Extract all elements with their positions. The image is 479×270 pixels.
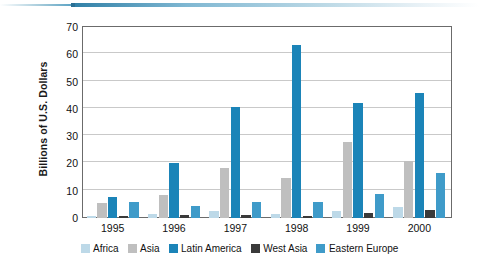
bar [436, 173, 446, 218]
legend-label: West Asia [263, 243, 307, 254]
bar [97, 203, 107, 218]
bar [220, 168, 230, 218]
bar-chart: Billions of U.S. Dollars 010203040506070… [0, 10, 479, 270]
y-tick-label: 50 [54, 77, 78, 87]
chart-legend: AfricaAsiaLatin AmericaWest AsiaEastern … [0, 243, 479, 254]
x-tick-label: 1997 [224, 222, 247, 234]
bar [425, 210, 435, 218]
bar [375, 194, 385, 218]
bar [303, 216, 313, 218]
legend-item-latin-america[interactable]: Latin America [169, 243, 242, 254]
bar [281, 178, 291, 218]
legend-label: Latin America [181, 243, 242, 254]
x-tick-label: 1999 [346, 222, 369, 234]
legend-label: Africa [93, 243, 119, 254]
x-tick-label: 1995 [101, 222, 124, 234]
top-rule-right-segment [72, 3, 479, 7]
bar [271, 214, 281, 218]
y-axis-title: Billions of U.S. Dollars [37, 19, 49, 219]
bar [343, 142, 353, 218]
bar [148, 214, 158, 218]
bar [241, 215, 251, 218]
x-tick-label: 2000 [408, 222, 431, 234]
bar [292, 45, 302, 218]
y-tick-label: 30 [54, 131, 78, 141]
y-axis-tick-labels: 010203040506070 [50, 26, 78, 218]
bar [231, 107, 241, 218]
x-tick-label: 1998 [285, 222, 308, 234]
y-tick-label: 0 [54, 213, 78, 223]
legend-swatch-icon [251, 244, 260, 253]
bar [393, 207, 403, 218]
legend-swatch-icon [81, 244, 90, 253]
y-tick-label: 40 [54, 104, 78, 114]
y-tick-label: 20 [54, 158, 78, 168]
bar [129, 202, 139, 218]
bar [353, 103, 363, 218]
bar [252, 202, 262, 218]
bar [180, 215, 190, 218]
bar [404, 161, 414, 218]
bar [364, 213, 374, 218]
bar [332, 211, 342, 218]
legend-label: Eastern Europe [329, 243, 399, 254]
bars-layer [83, 27, 451, 218]
bar [119, 216, 129, 218]
top-rule-left-segment [0, 4, 72, 6]
top-rule-marker-dot [71, 3, 75, 7]
bar [191, 206, 201, 218]
y-tick-label: 60 [54, 49, 78, 59]
y-tick-label: 70 [54, 22, 78, 32]
legend-label: Asia [140, 243, 159, 254]
legend-item-west-asia[interactable]: West Asia [251, 243, 308, 254]
bar [415, 93, 425, 218]
bar [108, 197, 118, 218]
legend-item-asia[interactable]: Asia [128, 243, 160, 254]
legend-swatch-icon [128, 244, 137, 253]
x-tick-label: 1996 [162, 222, 185, 234]
bar [313, 202, 323, 218]
legend-item-africa[interactable]: Africa [81, 243, 119, 254]
legend-swatch-icon [169, 244, 178, 253]
bar [169, 163, 179, 218]
x-axis-tick-labels: 199519961997199819992000 [82, 222, 452, 238]
legend-item-eastern-europe[interactable]: Eastern Europe [316, 243, 398, 254]
top-decorative-rule [0, 3, 479, 7]
legend-swatch-icon [316, 244, 325, 253]
bar [159, 195, 169, 218]
bar [209, 211, 219, 218]
y-tick-label: 10 [54, 186, 78, 196]
bar [87, 216, 97, 218]
